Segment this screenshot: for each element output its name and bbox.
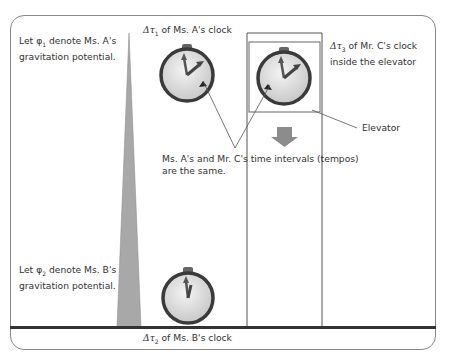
down-arrow-icon — [271, 127, 298, 147]
clock-a — [161, 44, 213, 101]
ground-line — [10, 326, 436, 329]
phi1-label: Let φ1 denote Ms. A's gravitation potent… — [19, 35, 116, 63]
elevator-label: Elevator — [362, 122, 400, 134]
potential-wedge — [117, 33, 141, 327]
phi2-label: Let φ2 denote Ms. B's gravitation potent… — [19, 264, 116, 292]
clock-b — [163, 267, 213, 323]
clock-c — [258, 47, 310, 104]
tau1-label: Δτ1 of Ms. A's clock — [143, 24, 232, 40]
pointer-line-elevator — [312, 110, 357, 128]
tau3-label: Δτ3 of Mr. C's clock inside the elevator — [330, 40, 417, 68]
same-intervals-label: Ms. A's and Mr. C's time intervals (temp… — [162, 153, 359, 177]
tau2-label: Δτ2 of Ms. B's clock — [143, 332, 232, 348]
